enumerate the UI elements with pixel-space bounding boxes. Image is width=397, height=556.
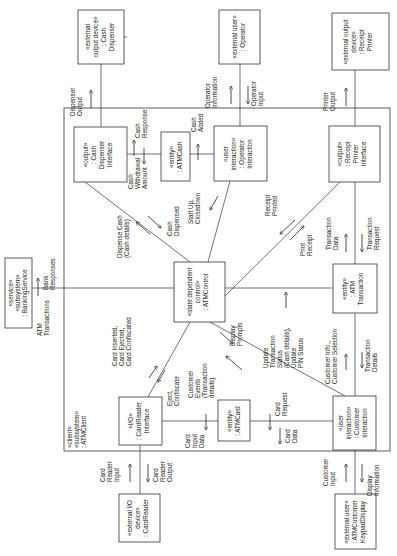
msg-receipt-printed: ReceiptPrinted (264, 194, 295, 234)
svg-text:«external user»: ATMCustomerKe: «external user»: ATMCustomerKeypadDispla… (343, 500, 367, 544)
svg-text:CardReaderInput: CardReaderInput (99, 461, 121, 482)
msg-atm-transactions: ATMTransactions (36, 300, 50, 336)
msg-display-information: DisplayInformation (362, 464, 380, 496)
cash-dispenser-interface-object: «output»: CashDispenserInterface (74, 127, 127, 182)
svg-text:CardRequest: CardRequest (274, 392, 289, 416)
card-reader-interface-object: «I/O»: CardReaderInterface (119, 397, 162, 445)
atm-transaction-object: «entity»: ATMTransaction (333, 264, 377, 313)
svg-text:BankResponses: BankResponses (42, 258, 57, 290)
msg-bank-responses: BankResponses (40, 258, 57, 290)
svg-text:CardInputData: CardInputData (184, 434, 205, 448)
msg-customer-input: CustomerInput (322, 459, 346, 486)
svg-text:CardReaderOutput: CardReaderOutput (152, 461, 174, 482)
operator-interaction-object: «userinteraction»: OperatorInteraction (214, 126, 267, 181)
msg-cash-added: CashAdded (190, 113, 204, 160)
svg-text:TransactionRequest: TransactionRequest (366, 217, 381, 250)
msg-card-reader-input: CardReaderInput (99, 461, 130, 482)
receipt-printer-object: «external outputdevice»: ReceiptPrinter (332, 13, 389, 70)
msg-card-inserted: Card Inserted,Card Ejected,Card Confisca… (111, 317, 157, 378)
atm-cash-object: «entity»: ATMCash (161, 132, 190, 181)
atm-client-subsystem-label: «client» «subsystem» : ATMClient (66, 409, 87, 448)
cash-dispenser-object: «externaloutput device»: CashDispenser (78, 10, 124, 64)
svg-text:«entity»: ATMCard: «entity»: ATMCard (226, 406, 241, 436)
msg-dispenser-output: DispenserOutput (69, 88, 91, 116)
msg-printer-output: PrinterOutput (322, 88, 346, 111)
svg-text:TransactionData: TransactionData (325, 217, 339, 250)
atm-card-object: «entity»: ATMCard (218, 400, 250, 441)
svg-text:Eject,Confiscate: Eject,Confiscate (166, 376, 180, 406)
msg-card-request: CardRequest (270, 392, 289, 430)
svg-text:CashDispensed: CashDispensed (166, 206, 181, 236)
svg-text:Start Up,Closedown: Start Up,Closedown (187, 192, 201, 224)
svg-text:CardData: CardData (284, 429, 298, 443)
msg-card-data: CardData (280, 428, 298, 444)
msg-dispense-cash: Dispense Cash(Cash details) (116, 215, 150, 258)
msg-display-prompts: DisplayPrompts (220, 323, 244, 346)
svg-text:ATMTransactions: ATMTransactions (36, 300, 50, 336)
msg-transaction-details: TransactionDetails (362, 339, 378, 372)
svg-text:«output»: CashDispenserInterfa: «output»: CashDispenserInterface (82, 141, 113, 169)
svg-text:CashAdded: CashAdded (190, 113, 204, 132)
svg-text:CashWithdrawalAmount: CashWithdrawalAmount (127, 158, 148, 189)
svg-text:PrinterOutput: PrinterOutput (322, 92, 337, 111)
msg-cash-response: CashResponse (134, 109, 149, 156)
msg-card-input-data: CardInputData (184, 414, 206, 448)
svg-text:TransactionDetails: TransactionDetails (364, 339, 378, 372)
svg-text:OperatorInformation: OperatorInformation (204, 76, 218, 108)
msg-card-reader-output: CardReaderOutput (148, 461, 174, 482)
svg-text:UpdateTransactionStatus(Cash d: UpdateTransactionStatus(Cash details),Up… (262, 327, 304, 368)
keypad-display-object: «external user»: ATMCustomerKeypadDispla… (335, 494, 376, 549)
atm-control-object: «state dependentcontrol»: ATMControl (174, 262, 225, 322)
msg-customer-info: Customer Info.,Customer Selection (324, 329, 346, 384)
msg-operator-input: OperatorInput (248, 81, 265, 106)
svg-text:OperatorInput: OperatorInput (250, 81, 265, 106)
msg-cash-dispensed: CashDispensed (148, 206, 181, 236)
svg-text:CustomerEvents(Transactiondeta: CustomerEvents(Transactiondetails) (187, 363, 216, 398)
svg-text:Card Inserted,Card Ejected,Car: Card Inserted,Card Ejected,Card Confisca… (111, 317, 132, 366)
svg-text:CashResponse: CashResponse (134, 109, 149, 138)
svg-text:DisplayInformation: DisplayInformation (366, 464, 380, 496)
msg-customer-events: CustomerEvents(Transactiondetails) (187, 356, 242, 398)
msg-startup-closedown: Start Up,Closedown (187, 192, 218, 224)
svg-text:DispenserOutput: DispenserOutput (69, 88, 84, 116)
banking-service-object: «service»«subsystem»: BankingService (5, 258, 32, 328)
svg-text:PrintReceipt: PrintReceipt (299, 234, 314, 256)
msg-print-receipt: PrintReceipt (290, 226, 314, 256)
svg-text:CustomerInput: CustomerInput (322, 459, 337, 486)
msg-operator-information: OperatorInformation (204, 76, 231, 108)
card-reader-object: «external I/Odevice»: CardReader (119, 494, 160, 542)
receipt-printer-interface-object: «output»: ReceiptPrinterInterface (329, 126, 380, 182)
operator-object: «external user»: Operator (219, 10, 260, 64)
svg-text:Customer Info.,Customer Select: Customer Info.,Customer Selection (324, 329, 338, 384)
customer-interaction-object: «userinteraction»: CustomerInteraction (333, 396, 376, 450)
svg-text:«output»: ReceiptPrinterInterf: «output»: ReceiptPrinterInterface (336, 141, 367, 166)
communication-diagram: «client» «subsystem» : ATMClient «extern… (0, 0, 397, 556)
svg-text:Dispense Cash(Cash details): Dispense Cash(Cash details) (116, 215, 131, 258)
svg-text:ReceiptPrinted: ReceiptPrinted (264, 194, 278, 216)
msg-transaction-data: TransactionData (325, 217, 346, 252)
msg-transaction-request: TransactionRequest (362, 217, 381, 252)
msg-update-transaction-status: UpdateTransactionStatus(Cash details),Up… (262, 292, 304, 368)
